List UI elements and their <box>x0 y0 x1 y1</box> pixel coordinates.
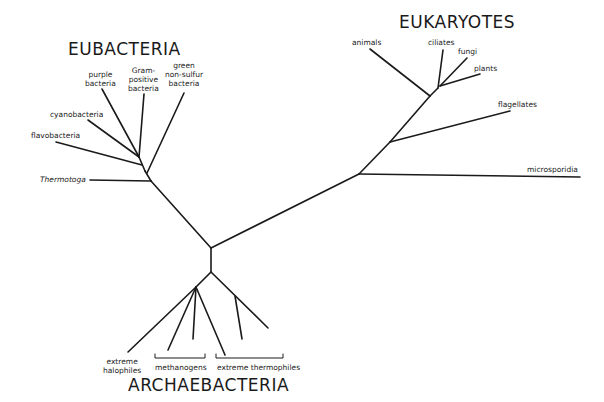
label-extreme-halophiles: extreme halophiles <box>103 357 141 375</box>
branch-arch-left <box>196 272 211 287</box>
branch-methanogen-3 <box>196 287 225 355</box>
branch-purple-bacteria <box>102 89 139 157</box>
branch-eukaryote-crown <box>430 88 438 96</box>
label-line: extreme <box>103 357 141 366</box>
branch-green-nonsulfur <box>147 93 184 173</box>
label-line: bacteria <box>85 79 116 88</box>
label-fungi: fungi <box>458 47 477 56</box>
label-line: green <box>165 61 203 70</box>
label-line: purple <box>85 70 116 79</box>
label-line: bacteria <box>165 79 203 88</box>
label-green-nonsulfur-bacteria: green non-sulfur bacteria <box>165 61 203 88</box>
label-microsporidia: microsporidia <box>527 165 578 174</box>
branch-gram-positive <box>139 94 144 157</box>
branch-eukaryote-inner2 <box>390 96 430 142</box>
label-line: Gram- <box>128 66 159 75</box>
tree-lines <box>0 0 604 402</box>
label-line: bacteria <box>128 84 159 93</box>
branch-thermotoga <box>90 180 151 181</box>
label-thermotoga: Thermotoga <box>40 175 86 184</box>
label-extreme-thermophiles: extreme thermophiles <box>217 363 300 372</box>
group-title-archaebacteria: ARCHAEBACTERIA <box>128 375 289 395</box>
label-line: positive <box>128 75 159 84</box>
bracket-thermophiles <box>216 354 283 358</box>
branch-center-to-eubacteria <box>151 181 211 248</box>
label-ciliates: ciliates <box>428 38 454 47</box>
label-cyanobacteria: cyanobacteria <box>50 110 103 119</box>
branch-flagellates <box>390 111 510 142</box>
branch-microsporidia <box>359 174 580 177</box>
label-methanogens: methanogens <box>155 363 207 372</box>
label-line: non-sulfur <box>165 70 203 79</box>
group-title-eukaryotes: EUKARYOTES <box>399 12 515 32</box>
branch-cyanobacteria <box>88 120 139 157</box>
label-flavobacteria: flavobacteria <box>31 131 80 140</box>
branch-center-to-eukaryotes <box>211 174 359 248</box>
label-purple-bacteria: purple bacteria <box>85 70 116 88</box>
group-title-eubacteria: EUBACTERIA <box>68 39 181 59</box>
label-gram-positive-bacteria: Gram- positive bacteria <box>128 66 159 93</box>
label-animals: animals <box>352 38 381 47</box>
bracket-methanogens <box>155 354 205 358</box>
branch-ciliates <box>438 50 443 88</box>
branch-eukaryote-inner <box>359 142 390 174</box>
branch-methanogen-1 <box>168 287 196 350</box>
branch-methanogen-2 <box>193 287 196 339</box>
label-flagellates: flagellates <box>498 100 537 109</box>
label-line: halophiles <box>103 366 141 375</box>
branch-halophiles <box>128 287 196 352</box>
label-plants: plants <box>474 64 497 73</box>
branch-flavobacteria <box>56 142 142 165</box>
branch-animals <box>370 49 430 96</box>
